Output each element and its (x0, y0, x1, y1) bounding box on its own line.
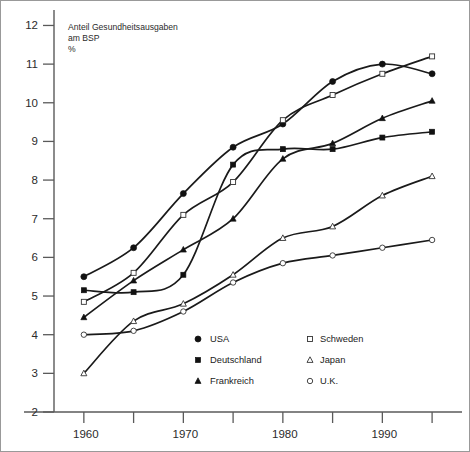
legend-marker (308, 337, 313, 342)
data-point-marker (429, 98, 435, 104)
y-tick-label: 6 (32, 251, 38, 263)
legend-marker (196, 358, 201, 363)
x-tick-label: 1980 (272, 428, 298, 440)
series-schweden (81, 54, 434, 304)
data-point-marker (429, 237, 434, 242)
data-point-marker (330, 93, 335, 98)
chart-legend: USADeutschlandFrankreichSchwedenJapanU.K… (195, 334, 363, 386)
data-point-marker (429, 173, 435, 179)
y-tick-label: 4 (32, 329, 39, 341)
y-tick-label: 10 (25, 97, 38, 109)
y-axis-title-line: Anteil Gesundheitsausgaben (68, 22, 178, 32)
series-line (84, 64, 432, 277)
legend-label: Schweden (320, 334, 363, 344)
data-point-marker (181, 309, 186, 314)
data-point-marker (429, 71, 435, 77)
y-tick-label: 2 (32, 406, 38, 418)
data-point-marker (379, 61, 385, 67)
y-tick-label: 3 (32, 367, 38, 379)
data-point-marker (81, 288, 86, 293)
legend-label: Japan (320, 355, 345, 365)
data-point-marker (81, 274, 87, 280)
y-tick-label: 8 (32, 174, 38, 186)
data-point-marker (330, 253, 335, 258)
chart-page: 234567891011121960197019801990 Anteil Ge… (0, 0, 470, 452)
y-tick-label: 11 (26, 58, 38, 70)
legend-marker (307, 378, 312, 383)
legend-item-usa[interactable]: USA (195, 334, 230, 344)
y-axis-title-line: am BSP (68, 33, 100, 43)
data-point-marker (231, 180, 236, 185)
data-point-marker (180, 191, 186, 197)
y-tick-label: 5 (32, 290, 38, 302)
legend-item-schweden[interactable]: Schweden (308, 334, 364, 344)
data-point-marker (131, 328, 136, 333)
series-line (84, 56, 432, 301)
data-point-marker (230, 280, 235, 285)
data-point-marker (181, 272, 186, 277)
y-tick-label: 12 (25, 19, 38, 31)
data-point-marker (280, 118, 285, 123)
data-point-marker (430, 54, 435, 59)
legend-item-japan[interactable]: Japan (307, 355, 345, 365)
data-point-marker (330, 147, 335, 152)
x-tick-label: 1970 (173, 428, 199, 440)
legend-label: USA (210, 334, 230, 344)
data-point-marker (231, 162, 236, 167)
legend-item-u-k[interactable]: U.K. (307, 376, 338, 386)
data-point-marker (280, 260, 285, 265)
series-deutschland (81, 129, 434, 294)
x-tick-label: 1960 (73, 428, 99, 440)
data-point-marker (131, 245, 137, 251)
data-point-marker (430, 129, 435, 134)
legend-marker (307, 357, 313, 363)
health-expenditure-line-chart: 234567891011121960197019801990 Anteil Ge… (0, 0, 470, 452)
legend-label: U.K. (320, 376, 338, 386)
data-point-marker (280, 147, 285, 152)
legend-marker (195, 378, 201, 384)
data-point-marker (380, 245, 385, 250)
data-point-marker (81, 332, 86, 337)
data-point-marker (181, 212, 186, 217)
series-line (84, 132, 432, 293)
legend-label: Deutschland (210, 355, 262, 365)
legend-label: Frankreich (210, 376, 254, 386)
y-tick-label: 9 (32, 135, 38, 147)
legend-item-deutschland[interactable]: Deutschland (196, 355, 262, 365)
legend-marker (195, 336, 201, 342)
series-layer (81, 54, 435, 376)
data-point-marker (131, 290, 136, 295)
data-point-marker (131, 270, 136, 275)
y-tick-label: 7 (32, 213, 38, 225)
data-point-marker (81, 299, 86, 304)
data-point-marker (380, 71, 385, 76)
series-frankreich (81, 98, 435, 320)
data-point-marker (330, 79, 336, 85)
data-point-marker (380, 135, 385, 140)
y-axis-title-line: % (68, 44, 76, 54)
series-line (84, 101, 432, 317)
x-tick-label: 1990 (372, 428, 398, 440)
y-axis-title: Anteil Gesundheitsausgabenam BSP% (68, 22, 178, 54)
data-point-marker (230, 144, 236, 150)
legend-item-frankreich[interactable]: Frankreich (195, 376, 254, 386)
